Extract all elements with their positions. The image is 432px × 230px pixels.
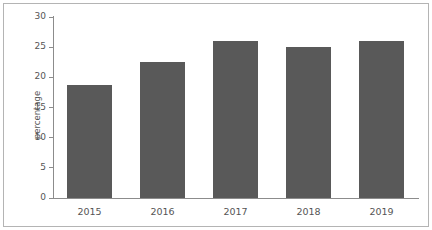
y-tick-label: 5 [40, 162, 46, 173]
y-tick-mark [49, 107, 53, 108]
bar-2018[interactable] [286, 47, 331, 198]
y-tick-label: 20 [35, 71, 46, 82]
x-axis-line [53, 198, 419, 199]
y-tick-label: 15 [35, 102, 46, 113]
y-tick-label: 10 [35, 132, 46, 143]
y-tick-mark [49, 77, 53, 78]
bar-2017[interactable] [213, 41, 258, 198]
y-tick-label: 25 [35, 41, 46, 52]
y-tick-mark [49, 47, 53, 48]
bar-2016[interactable] [140, 62, 185, 198]
y-tick-mark [49, 17, 53, 18]
plot-area: 0 5 10 15 20 25 30 [53, 17, 418, 198]
y-tick-label: 0 [40, 192, 46, 203]
bar-2019[interactable] [359, 41, 404, 198]
x-tick-label-2018: 2018 [272, 206, 345, 218]
y-tick-mark [49, 198, 53, 199]
x-tick-label-2015: 2015 [53, 206, 126, 218]
y-tick-mark [49, 137, 53, 138]
x-tick-label-2017: 2017 [199, 206, 272, 218]
bar-2015[interactable] [67, 85, 112, 198]
bar-chart-figure: percentage 0 5 10 15 20 25 30 [0, 0, 432, 230]
x-tick-label-2019: 2019 [345, 206, 418, 218]
x-tick-label-2016: 2016 [126, 206, 199, 218]
y-tick-mark [49, 167, 53, 168]
y-tick-label: 30 [35, 11, 46, 22]
